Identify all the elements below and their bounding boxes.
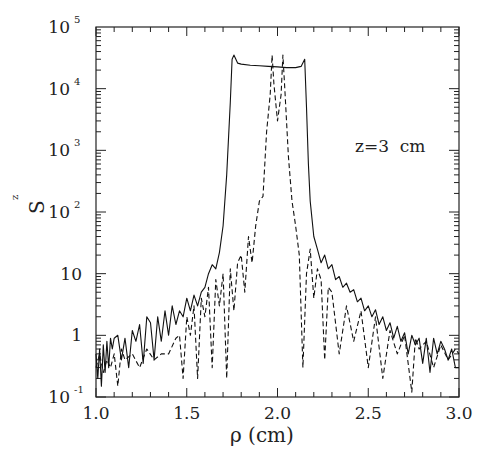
y-tick-exponent: 5 bbox=[74, 14, 80, 25]
svg-text:S: S bbox=[25, 200, 49, 214]
y-tick-label: 10 bbox=[48, 79, 70, 99]
y-tick-exponent: -1 bbox=[74, 384, 84, 395]
axis-ticks bbox=[96, 27, 459, 397]
x-tick-label: 1.5 bbox=[173, 403, 200, 423]
y-tick-label: 10 bbox=[48, 140, 70, 160]
svg-text:z: z bbox=[9, 195, 20, 200]
dashed-curve bbox=[96, 55, 459, 392]
x-tick-label: 2.0 bbox=[264, 403, 291, 423]
y-tick-label: 1 bbox=[71, 325, 82, 345]
y-tick-exponent: 2 bbox=[74, 199, 80, 210]
y-tick-label: 10 bbox=[48, 387, 70, 407]
x-tick-labels: 1.01.52.02.53.0 bbox=[82, 403, 472, 423]
plot-frame bbox=[96, 27, 459, 397]
chart-svg: 1.01.52.02.53.0 10510410310210110-1 z=3 … bbox=[0, 0, 486, 468]
annotation-z: z=3 cm bbox=[355, 136, 425, 156]
y-tick-exponent: 4 bbox=[74, 76, 80, 87]
x-axis-title: ρ (cm) bbox=[230, 423, 294, 447]
y-tick-label: 10 bbox=[48, 17, 70, 37]
data-series bbox=[96, 55, 459, 392]
y-axis-title: S z bbox=[9, 195, 49, 214]
x-tick-label: 1.0 bbox=[82, 403, 109, 423]
y-tick-label: 10 bbox=[60, 264, 82, 284]
x-tick-label: 2.5 bbox=[355, 403, 382, 423]
y-tick-exponent: 3 bbox=[74, 137, 80, 148]
x-tick-label: 3.0 bbox=[445, 403, 472, 423]
y-tick-labels: 10510410310210110-1 bbox=[48, 14, 83, 407]
y-tick-label: 10 bbox=[48, 202, 70, 222]
